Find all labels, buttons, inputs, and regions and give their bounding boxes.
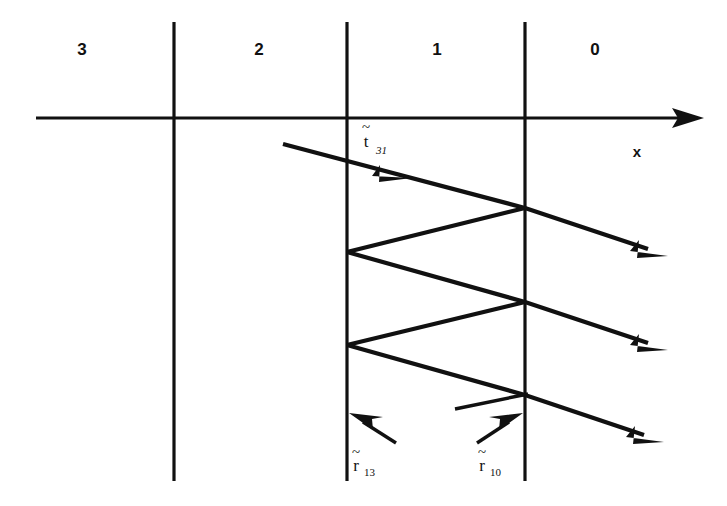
reflection-arrow-10-head (489, 413, 523, 430)
region-label-1: 1 (432, 40, 441, 59)
t-tilde-31-base: t (364, 132, 369, 151)
r-tilde-13-subscript: 13 (364, 466, 376, 478)
r-tilde-10-label: ~ r 10 (478, 444, 502, 478)
optics-diagram: 3 2 1 0 x (0, 0, 727, 506)
r-tilde-10-base: r (479, 456, 485, 475)
region-label-3: 3 (77, 40, 86, 59)
r-tilde-10-subscript: 10 (490, 466, 502, 478)
figure-canvas: 3 2 1 0 x (0, 0, 727, 506)
r-tilde-13-base: r (353, 456, 359, 475)
exit-ray-1 (525, 208, 648, 249)
bounce-segment-4 (347, 345, 525, 395)
region-label-2: 2 (254, 40, 263, 59)
x-axis-label: x (633, 143, 642, 160)
exit-ray-2 (525, 302, 648, 343)
r-tilde-13-label: ~ r 13 (352, 444, 376, 478)
incident-ray (283, 144, 525, 208)
exit-ray-3 (525, 395, 644, 435)
incident-ray-group (283, 144, 525, 208)
region-labels-group: 3 2 1 0 (77, 40, 599, 59)
t-tilde-31-label: ~ t 31 (362, 119, 387, 156)
bounce-segment-1 (347, 208, 525, 252)
region-label-0: 0 (590, 40, 599, 59)
internal-bounces-group (347, 208, 525, 395)
t-tilde-31-subscript: 31 (375, 144, 387, 156)
bounce-segment-3 (347, 302, 525, 345)
exit-rays-group (525, 208, 668, 444)
partial-reflection-stub (455, 394, 528, 409)
bounce-segment-2 (347, 252, 525, 302)
reflection-arrow-13-head (349, 413, 383, 430)
reflection-pointer-arrows-group (349, 413, 523, 443)
